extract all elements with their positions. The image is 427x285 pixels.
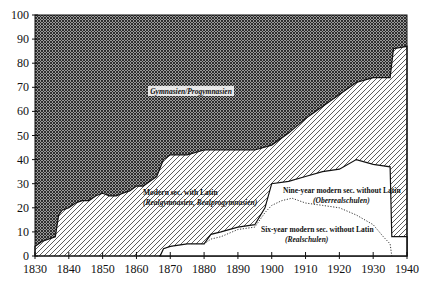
x-tick-label: 1840 — [57, 262, 81, 276]
y-tick-label: 0 — [23, 249, 29, 263]
label-realschulen-line1: Six-year modern sec. without Latin — [261, 225, 374, 234]
x-tick-label: 1940 — [395, 262, 419, 276]
x-tick-label: 1900 — [260, 262, 284, 276]
x-tick-label: 1880 — [192, 262, 216, 276]
plot-area — [35, 15, 407, 256]
stacked-area-chart: 0102030405060708090100 18301840185018601… — [0, 0, 427, 285]
label-oberrealschulen-line2: (Oberrealschulen) — [313, 196, 370, 205]
y-tick-label: 50 — [17, 129, 29, 143]
x-tick-label: 1860 — [124, 262, 148, 276]
y-tick-label: 70 — [17, 80, 29, 94]
label-oberrealschulen-line1: Nine-year modern sec. without Latin — [283, 186, 401, 195]
y-tick-label: 30 — [17, 177, 29, 191]
y-tick-label: 10 — [17, 225, 29, 239]
y-tick-label: 60 — [17, 104, 29, 118]
x-tick-label: 1870 — [158, 262, 182, 276]
y-axis: 0102030405060708090100 — [11, 8, 38, 263]
x-tick-label: 1930 — [361, 262, 385, 276]
x-tick-label: 1890 — [226, 262, 250, 276]
label-gymnasien: Gymnasien/Progymnasien — [150, 87, 232, 96]
label-realgymnasien-line2: (Realgymnasien, Realprogymnasien) — [143, 198, 258, 207]
y-tick-label: 100 — [11, 8, 29, 22]
x-tick-label: 1830 — [23, 262, 47, 276]
y-tick-label: 40 — [17, 153, 29, 167]
x-tick-label: 1910 — [294, 262, 318, 276]
y-tick-label: 20 — [17, 201, 29, 215]
label-realgymnasien-line1: Modern sec. with Latin — [143, 188, 218, 197]
y-tick-label: 80 — [17, 56, 29, 70]
x-tick-label: 1920 — [327, 262, 351, 276]
x-tick-label: 1850 — [91, 262, 115, 276]
y-tick-label: 90 — [17, 32, 29, 46]
label-realschulen-line2: (Realschulen) — [285, 235, 329, 244]
